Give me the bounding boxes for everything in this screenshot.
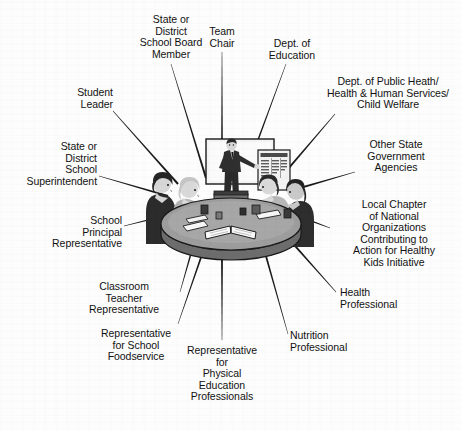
- label-school-principal-representative: School Principal Representative: [52, 215, 122, 250]
- labels-layer: State or District School Board MemberTea…: [0, 0, 461, 430]
- label-classroom-teacher-representative: Classroom Teacher Representative: [89, 281, 159, 316]
- label-health-professional: Health Professional: [340, 287, 397, 310]
- label-student-leader: Student Leader: [77, 87, 113, 110]
- label-representative-for-physical-education-professionals: Representative for Physical Education Pr…: [187, 345, 257, 403]
- label-dept-of-public-health-human-services-child-welfare: Dept. of Public Heath/ Health & Human Se…: [327, 76, 449, 111]
- label-state-or-district-school-superintendent: State or District School Superintendent: [26, 141, 97, 187]
- label-local-chapter-national-organizations: Local Chapter of National Organizations …: [353, 199, 435, 269]
- label-dept-of-education: Dept. of Education: [269, 38, 315, 61]
- label-state-or-district-school-board-member: State or District School Board Member: [140, 14, 202, 60]
- label-other-state-government-agencies: Other State Government Agencies: [367, 139, 424, 174]
- label-nutrition-professional: Nutrition Professional: [290, 330, 347, 353]
- label-representative-for-school-foodservice: Representative for School Foodservice: [101, 328, 171, 363]
- label-team-chair: Team Chair: [209, 26, 234, 49]
- diagram-figure: State or District School Board MemberTea…: [0, 0, 461, 430]
